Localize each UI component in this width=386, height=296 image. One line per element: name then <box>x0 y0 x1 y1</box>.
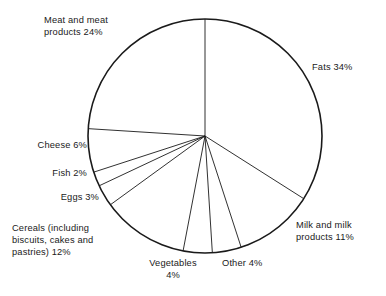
slice-label-cereals-line3: pastries) 12% <box>12 247 71 257</box>
slice-label-vegetables-line1: Vegetables <box>149 258 197 268</box>
slice-label-cereals-line2: biscuits, cakes and <box>12 235 93 245</box>
slice-label-fish: Fish 2% <box>0 167 87 179</box>
slice-label-meat-line2: products 24% <box>44 27 103 37</box>
pie-chart: Meat and meatproducts 24% Fats 34% Chees… <box>0 0 386 296</box>
slice-label-meat-line1: Meat and meat <box>44 15 108 25</box>
slice-label-eggs-line1: Eggs 3% <box>61 192 99 202</box>
slice-label-other-line1: Other 4% <box>222 258 262 268</box>
slice-label-fats-line1: Fats 34% <box>312 62 352 72</box>
slice-label-milk-line2: products 11% <box>296 232 354 242</box>
slice-label-fats: Fats 34% <box>312 61 386 73</box>
slice-label-other: Other 4% <box>222 257 286 269</box>
slice-label-vegetables-line2: 4% <box>166 270 180 280</box>
slice-label-cereals-line1: Cereals (including <box>12 223 89 233</box>
slice-label-eggs: Eggs 3% <box>0 191 99 203</box>
slice-label-cereals: Cereals (includingbiscuits, cakes andpas… <box>12 222 136 259</box>
slice-label-fish-line1: Fish 2% <box>52 168 87 178</box>
slice-label-milk-line1: Milk and milk <box>296 220 352 230</box>
slice-label-vegetables: Vegetables4% <box>135 257 211 281</box>
slice-label-milk: Milk and milkproducts 11% <box>296 219 386 243</box>
slice-label-meat: Meat and meatproducts 24% <box>44 14 174 38</box>
slice-label-cheese: Cheese 6% <box>0 139 87 151</box>
slice-label-cheese-line1: Cheese 6% <box>38 140 87 150</box>
